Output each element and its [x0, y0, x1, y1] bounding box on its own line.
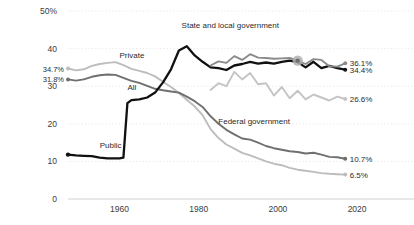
y-tick-label-10: 10 [48, 156, 58, 166]
line-chart-plot: 50%403020100 1960198020002020 PrivateAll… [0, 0, 414, 225]
x-tick-label-1960: 1960 [110, 204, 129, 214]
series-inline-labels: PrivateAllPublicState and local governme… [100, 21, 291, 150]
end-value-label-federal-government: 26.6% [350, 95, 373, 104]
data-series-lines [68, 46, 345, 174]
series-label-federal-government: Federal government [218, 117, 290, 126]
endpoint-dot-state-and-local-government [343, 61, 347, 65]
highlight-center-dot-icon[interactable] [296, 58, 300, 62]
start-value-label-all: 31.8% [43, 75, 65, 84]
y-tick-label-0: 0 [52, 194, 57, 204]
series-label-private: Private [120, 51, 145, 60]
series-label-all: All [127, 83, 136, 92]
endpoint-dot-federal-government [343, 97, 347, 101]
y-tick-label-50: 50% [40, 6, 57, 16]
startpoint-dot-private [66, 67, 70, 71]
endpoint-dot-public [343, 68, 347, 72]
end-value-label-state-and-local-government: 36.1% [350, 59, 373, 68]
chart-container: 50%403020100 1960198020002020 PrivateAll… [0, 0, 414, 225]
endpoint-dot-private [343, 173, 347, 177]
series-label-public: Public [100, 141, 122, 150]
startpoint-dot-public [66, 152, 70, 156]
y-axis-tick-labels: 50%403020100 [40, 6, 57, 204]
x-tick-label-2000: 2000 [268, 204, 287, 214]
endpoint-dot-all [343, 157, 347, 161]
start-value-label-private: 34.7% [43, 65, 65, 74]
startpoint-dot-all [66, 77, 70, 81]
x-axis-tick-labels: 1960198020002020 [110, 204, 367, 214]
series-line-federal-government[interactable] [211, 72, 346, 101]
x-tick-label-1980: 1980 [189, 204, 208, 214]
series-label-state-and-local-government: State and local government [182, 21, 280, 30]
y-tick-label-40: 40 [48, 44, 58, 54]
end-value-label-private: 6.5% [350, 171, 368, 180]
end-value-label-all: 10.7% [350, 155, 373, 164]
series-line-state-and-local-government[interactable] [211, 54, 346, 66]
y-tick-label-20: 20 [48, 119, 58, 129]
x-tick-label-2020: 2020 [348, 204, 367, 214]
highlight-marker[interactable] [293, 55, 303, 65]
